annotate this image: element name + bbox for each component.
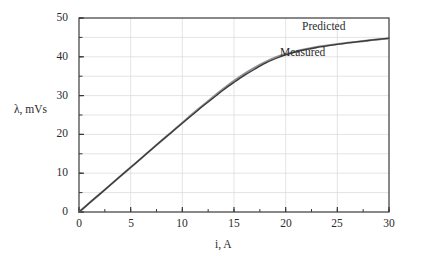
ytick-label-1: 10 <box>40 167 68 179</box>
ytick-label-4: 40 <box>40 51 68 63</box>
figure-container: 0 10 20 30 40 50 0 5 10 15 20 25 30 λ, m… <box>0 0 425 259</box>
ytick-label-2: 20 <box>40 128 68 140</box>
y-axis-title: λ, mVs <box>14 104 47 116</box>
xtick-label-6: 30 <box>373 218 405 230</box>
xtick-label-1: 5 <box>115 218 147 230</box>
ytick-label-3: 30 <box>40 90 68 102</box>
annotation-predicted: Predicted <box>302 21 345 33</box>
annotation-measured: Measured <box>280 47 325 59</box>
x-axis-title: i, A <box>215 239 232 251</box>
ytick-label-0: 0 <box>40 206 68 218</box>
grid-lines <box>79 18 389 212</box>
ytick-label-5: 50 <box>40 12 68 24</box>
xtick-label-0: 0 <box>63 218 95 230</box>
xtick-label-2: 10 <box>166 218 198 230</box>
xtick-label-3: 15 <box>218 218 250 230</box>
xtick-label-4: 20 <box>270 218 302 230</box>
xtick-label-5: 25 <box>321 218 353 230</box>
